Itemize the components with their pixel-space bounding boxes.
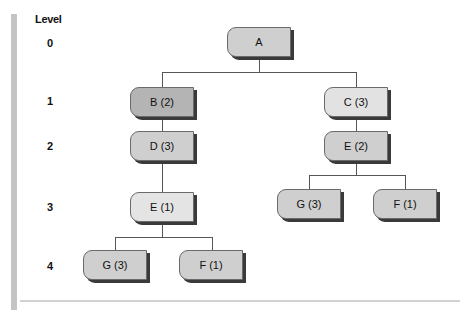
connector-a-down xyxy=(259,57,260,72)
bottom-rule xyxy=(20,300,460,302)
level-label-1: 1 xyxy=(47,95,53,107)
connector-to-f-left xyxy=(212,237,213,250)
connector-to-f-right xyxy=(405,175,406,189)
connector-e1-down xyxy=(162,223,163,237)
node-f-right: F (1) xyxy=(373,189,437,219)
node-g-left: G (3) xyxy=(83,250,147,280)
connector-e2-down xyxy=(356,162,357,175)
node-e-left: E (1) xyxy=(130,192,194,222)
connector-level4-bar xyxy=(115,237,213,238)
connector-c-e2 xyxy=(356,117,357,131)
node-f-left: F (1) xyxy=(179,250,243,280)
level-label-2: 2 xyxy=(47,140,53,152)
left-margin-bar xyxy=(11,14,17,310)
node-d: D (3) xyxy=(130,131,194,161)
connector-level3-bar xyxy=(309,175,406,176)
connector-d-e1 xyxy=(162,162,163,192)
connector-to-g-left xyxy=(115,237,116,250)
node-a: A xyxy=(227,27,291,57)
level-label-0: 0 xyxy=(47,37,53,49)
connector-level1-bar xyxy=(162,72,357,73)
node-b: B (2) xyxy=(130,87,194,117)
connector-to-g-right xyxy=(309,175,310,189)
level-label-4: 4 xyxy=(47,260,53,272)
node-e-right: E (2) xyxy=(324,131,388,161)
connector-b-d xyxy=(162,117,163,131)
connector-to-c xyxy=(356,72,357,87)
level-column-header: Level xyxy=(35,13,62,25)
node-c: C (3) xyxy=(324,87,388,117)
node-g-right: G (3) xyxy=(277,189,341,219)
connector-to-b xyxy=(162,72,163,87)
level-label-3: 3 xyxy=(47,201,53,213)
